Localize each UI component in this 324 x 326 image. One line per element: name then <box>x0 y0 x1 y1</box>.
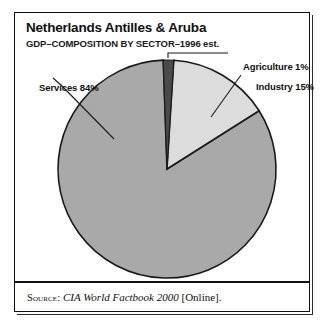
slice-label-agriculture: Agriculture 1% <box>243 61 309 72</box>
source-label: Source: <box>27 292 60 303</box>
slice-label-industry: Industry 15% <box>256 81 314 92</box>
source-line: Source: CIA World Factbook 2000 [Online]… <box>27 291 222 303</box>
chart-plot-area: Services 84% Agriculture 1% Industry 15% <box>15 13 309 281</box>
slice-label-services: Services 84% <box>39 82 99 93</box>
pie-diagram <box>15 13 309 281</box>
source-publication: CIA World Factbook 2000 <box>63 291 179 303</box>
source-divider <box>15 281 309 283</box>
source-suffix: [Online]. <box>182 291 222 303</box>
leader-line-agriculture <box>168 53 228 58</box>
pie-chart-figure: Netherlands Antilles & Aruba GDP–COMPOSI… <box>0 0 324 326</box>
